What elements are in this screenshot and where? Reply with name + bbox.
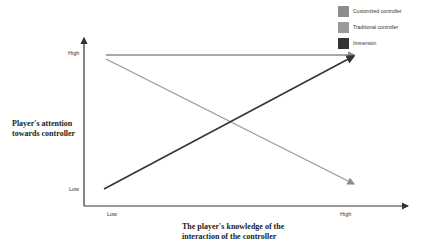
legend: Customized controller Traditional contro… bbox=[338, 4, 401, 52]
x-axis-title-line1: The player's knowledge of the bbox=[182, 222, 284, 232]
legend-item-customized: Customized controller bbox=[338, 4, 401, 18]
x-tick-low: Low bbox=[107, 211, 117, 217]
x-tick-high: High bbox=[340, 211, 351, 217]
y-tick-high: High bbox=[68, 50, 79, 56]
y-tick-low: Low bbox=[69, 186, 79, 192]
series-immersion bbox=[104, 56, 354, 189]
legend-label: Customized controller bbox=[353, 8, 401, 14]
legend-item-traditional: Traditional controller bbox=[338, 20, 401, 34]
legend-label: Immersion bbox=[353, 40, 376, 46]
legend-label: Traditional controller bbox=[353, 24, 398, 30]
y-axis-title-line2: towards controller bbox=[12, 129, 75, 139]
legend-swatch bbox=[338, 6, 349, 17]
legend-swatch bbox=[338, 22, 349, 33]
legend-item-immersion: Immersion bbox=[338, 36, 401, 50]
x-axis-title: The player's knowledge of the interactio… bbox=[182, 222, 284, 242]
x-axis-title-line2: interaction of the controller bbox=[182, 232, 284, 242]
legend-swatch bbox=[338, 38, 349, 49]
y-axis-title: Player's attention towards controller bbox=[12, 119, 75, 139]
y-axis-title-line1: Player's attention bbox=[12, 119, 75, 129]
